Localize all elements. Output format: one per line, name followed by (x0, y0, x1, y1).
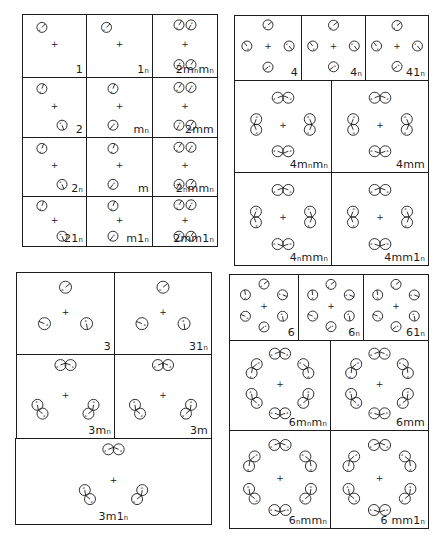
rotation-axis-icon: + (376, 120, 384, 130)
motif-icon: a (305, 483, 316, 494)
panel-41n: +aaaa 41ₙ (365, 15, 429, 81)
rotation-axis-icon: + (116, 215, 124, 225)
motif-icon: a (174, 20, 184, 30)
svg-text:a: a (307, 115, 309, 119)
svg-text:a: a (250, 375, 252, 379)
svg-text:a: a (270, 353, 272, 357)
svg-text:a: a (59, 180, 61, 184)
motif-icon: a (284, 41, 294, 51)
svg-text:a: a (190, 400, 192, 404)
rotation-axis-icon: + (327, 301, 335, 311)
motif-icon: a (409, 290, 419, 300)
svg-text:a: a (347, 312, 349, 316)
motif-icon: a (344, 311, 354, 321)
svg-text:a: a (56, 365, 58, 369)
svg-text:a: a (255, 499, 257, 503)
motif-icon: a (240, 290, 250, 300)
rotation-axis-icon: + (159, 390, 167, 400)
motif-icon: a (108, 84, 118, 94)
panel-4: +aaaa 4 (234, 15, 302, 81)
svg-text:a: a (264, 25, 266, 29)
motif-icon: a (305, 461, 316, 472)
svg-text:a: a (355, 499, 357, 503)
motif-icon: a (83, 408, 94, 419)
svg-text:a: a (246, 316, 248, 320)
svg-text:a: a (286, 353, 288, 357)
motif-icon: a (250, 206, 261, 217)
svg-text:a: a (59, 121, 61, 125)
svg-text:a: a (357, 403, 359, 407)
rotation-axis-icon: + (116, 101, 124, 111)
rotation-axis-icon: + (181, 160, 189, 170)
panel-3: +aaa 3 (16, 272, 115, 355)
svg-text:a: a (352, 207, 354, 211)
svg-text:a: a (398, 63, 400, 67)
motif-icon: a (373, 290, 383, 300)
motif-icon: a (240, 311, 250, 321)
motif-icon: a (305, 217, 316, 228)
svg-text:a: a (370, 508, 372, 512)
motif-icon: a (242, 41, 252, 51)
svg-text:a: a (357, 361, 359, 365)
svg-text:a: a (273, 149, 275, 153)
svg-text:a: a (72, 365, 74, 369)
rotation-axis-icon: + (116, 160, 124, 170)
motif-icon: a (55, 360, 66, 371)
svg-text:a: a (387, 97, 389, 101)
rotation-axis-icon: + (51, 215, 59, 225)
svg-text:a: a (110, 150, 112, 154)
motif-icon: a (251, 359, 262, 370)
svg-text:a: a (349, 390, 351, 394)
motif-icon: a (108, 201, 118, 211)
motif-icon: a (283, 184, 294, 195)
motif-icon: a (249, 451, 260, 462)
svg-text:a: a (386, 353, 388, 357)
svg-text:a: a (386, 411, 388, 415)
motif-icon: a (304, 124, 315, 135)
svg-text:a: a (43, 414, 45, 418)
panel-4mnmn: +aaaaaaaa 4mₙmₙ (234, 80, 332, 173)
motif-icon: a (369, 184, 380, 195)
svg-text:a: a (299, 361, 301, 365)
svg-text:a: a (104, 449, 106, 453)
motif-icon: a (263, 20, 273, 30)
motif-icon: a (79, 485, 90, 496)
svg-text:a: a (399, 361, 401, 365)
motif-icon: a (174, 200, 184, 210)
rotation-axis-icon: + (279, 120, 287, 130)
svg-text:a: a (169, 365, 171, 369)
svg-text:a: a (307, 375, 309, 379)
motif-icon: a (379, 408, 390, 419)
motif-icon: a (308, 290, 318, 300)
group-label: 1 (76, 64, 83, 76)
svg-text:a: a (409, 468, 411, 472)
panel-4mm1n: +aaaaaaaa 4mm1ₙ (331, 172, 429, 266)
svg-text:a: a (387, 190, 389, 194)
panel-3m: +aaaaaa 3m (114, 354, 212, 439)
rotation-axis-icon: + (260, 301, 268, 311)
motif-icon: a (250, 217, 261, 228)
svg-text:a: a (46, 323, 48, 327)
motif-icon: a (272, 92, 283, 103)
svg-text:a: a (159, 288, 161, 292)
motif-icon: a (346, 388, 357, 399)
svg-text:a: a (191, 84, 193, 88)
svg-text:a: a (349, 375, 351, 379)
svg-text:a: a (247, 485, 249, 489)
panel-4nmmn: +aaaaaaaa 4ₙmmₙ (234, 172, 332, 266)
motif-icon: a (368, 505, 379, 516)
svg-text:a: a (393, 26, 395, 30)
svg-text:a: a (377, 47, 379, 51)
svg-text:a: a (113, 233, 115, 237)
svg-text:a: a (332, 324, 334, 328)
motif-icon: a (298, 397, 309, 408)
group-label: 4ₙ (350, 67, 362, 79)
motif-icon: a (329, 20, 339, 30)
motif-icon: a (401, 124, 412, 135)
panel-m: +aa m (86, 137, 153, 197)
motif-icon: a (163, 360, 174, 371)
motif-icon: a (157, 281, 169, 293)
motif-icon: a (349, 493, 360, 504)
motif-icon: a (103, 444, 114, 455)
motif-icon: a (246, 388, 257, 399)
